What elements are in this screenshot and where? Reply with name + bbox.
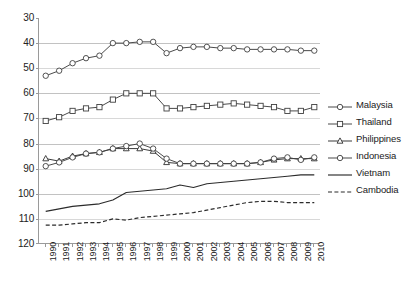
marker-thailand-1994 [97,105,102,110]
marker-thailand-1998 [151,91,156,96]
marker-thailand-2005 [245,102,250,107]
line-chart: 30405060708090100110120 1990199119921993… [0,0,415,284]
x-tickmark-1991 [58,244,59,247]
marker-thailand-2001 [191,105,196,110]
y-axis-tick-60: 60 [0,88,34,98]
series-thailand [43,91,317,124]
marker-indonesia-1999 [164,156,169,161]
x-axis-tick-2007: 2007 [277,242,286,282]
legend-label-malaysia: Malaysia [356,99,393,110]
legend: MalaysiaThailandPhilippinesIndonesiaViet… [327,96,415,198]
y-axis-tick-80: 80 [0,139,34,149]
legend-swatch-vietnam-icon [327,167,353,179]
marker-indonesia-2002 [204,161,209,166]
x-tickmark-1999 [166,244,167,247]
x-tickmark-1993 [85,244,86,247]
x-tickmark-2005 [246,244,247,247]
x-axis-tick-2005: 2005 [250,242,259,282]
marker-indonesia-2003 [218,161,223,166]
x-tickmark-2009 [300,244,301,247]
y-axis-tick-90: 90 [0,164,34,174]
x-axis-tick-1992: 1992 [76,242,85,282]
legend-item-vietnam[interactable]: Vietnam [327,164,415,181]
marker-indonesia-2006 [258,160,263,165]
marker-indonesia-2009 [298,157,303,162]
marker-thailand-1995 [110,97,115,102]
x-axis-tick-2001: 2001 [196,242,205,282]
legend-label-vietnam: Vietnam [356,167,390,178]
x-axis-tick-1998: 1998 [156,242,165,282]
marker-malaysia-2009 [298,48,303,53]
y-axis-tick-40: 40 [0,38,34,48]
marker-indonesia-2008 [285,155,290,160]
legend-swatch-malaysia-icon [327,99,353,111]
marker-indonesia-2004 [231,161,236,166]
plot-area [38,18,320,244]
x-axis-tick-2000: 2000 [183,242,192,282]
y-axis-tick-50: 50 [0,63,34,73]
marker-philippines-1990 [43,156,49,161]
marker-indonesia-2005 [244,161,249,166]
legend-item-cambodia[interactable]: Cambodia [327,181,415,198]
x-axis-tick-1999: 1999 [170,242,179,282]
legend-label-philippines: Philippines [356,133,401,144]
x-tickmark-2002 [206,244,207,247]
marker-indonesia-2007 [271,156,276,161]
legend-swatch-cambodia-icon [327,184,353,196]
marker-malaysia-2005 [244,47,249,52]
marker-thailand-1999 [164,106,169,111]
marker-malaysia-2007 [271,47,276,52]
marker-thailand-2010 [312,105,317,110]
x-axis-tick-2010: 2010 [317,242,326,282]
x-tickmark-2001 [192,244,193,247]
marker-thailand-1991 [57,115,62,120]
marker-indonesia-1990 [43,163,48,168]
x-axis-tick-labels: 1990199119921993199419951996199719981999… [0,244,415,284]
legend-item-indonesia[interactable]: Indonesia [327,147,415,164]
marker-malaysia-2010 [312,48,317,53]
legend-label-indonesia: Indonesia [356,150,396,161]
marker-thailand-2006 [258,103,263,108]
legend-item-philippines[interactable]: Philippines [327,130,415,147]
marker-thailand-2008 [285,108,290,113]
x-axis-tick-2008: 2008 [290,242,299,282]
x-tickmark-2010 [313,244,314,247]
legend-label-cambodia: Cambodia [356,184,399,195]
x-tickmark-2008 [286,244,287,247]
marker-indonesia-1995 [110,146,115,151]
x-axis-tick-2003: 2003 [223,242,232,282]
x-tickmark-2006 [260,244,261,247]
x-tickmark-1994 [98,244,99,247]
marker-malaysia-1998 [150,39,155,44]
x-axis-tick-2004: 2004 [237,242,246,282]
legend-swatch-thailand-icon [327,116,353,128]
marker-thailand-1992 [70,108,75,113]
y-axis-tick-30: 30 [0,13,34,23]
x-tickmark-1996 [125,244,126,247]
series-vietnam [46,175,315,211]
marker-malaysia-2004 [231,45,236,50]
marker-indonesia-2001 [191,161,196,166]
marker-malaysia-2008 [285,47,290,52]
marker-thailand-2004 [231,101,236,106]
legend-label-thailand: Thailand [356,116,392,127]
marker-malaysia-1996 [124,40,129,45]
x-tickmark-2000 [179,244,180,247]
x-axis-tick-2009: 2009 [304,242,313,282]
marker-thailand-2003 [218,102,223,107]
x-tickmark-2007 [273,244,274,247]
marker-indonesia-1996 [124,143,129,148]
legend-item-thailand[interactable]: Thailand [327,113,415,130]
marker-indonesia-1992 [70,155,75,160]
marker-malaysia-1999 [164,50,169,55]
x-tickmark-2003 [219,244,220,247]
x-axis-tick-1996: 1996 [129,242,138,282]
x-axis-tick-1990: 1990 [49,242,58,282]
x-tickmark-2004 [233,244,234,247]
marker-thailand-2002 [204,103,209,108]
x-axis-tick-1995: 1995 [116,242,125,282]
marker-thailand-1996 [124,91,129,96]
y-axis-tick-110: 110 [0,214,34,224]
marker-thailand-2009 [298,108,303,113]
legend-item-malaysia[interactable]: Malaysia [327,96,415,113]
